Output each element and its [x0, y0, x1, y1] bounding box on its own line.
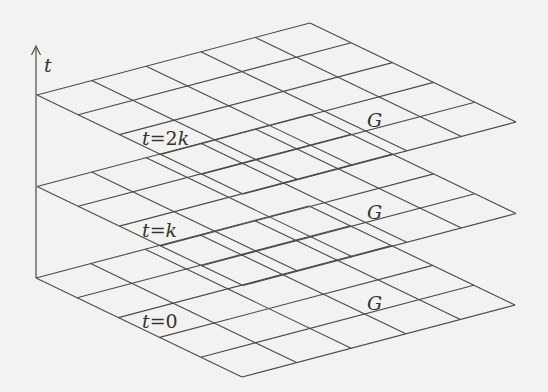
graph-label-middle: G [367, 201, 382, 223]
grid-layer-top: t=2kG [37, 23, 516, 194]
grid-layer-middle: t=kG [37, 115, 516, 286]
time-label-bottom: t=0 [142, 310, 178, 332]
time-axis: t [32, 46, 53, 278]
time-label-middle: t=k [142, 219, 177, 241]
graph-label-top: G [367, 109, 382, 131]
time-label-top: t=2k [142, 127, 189, 149]
grid-layer-bottom: t=0G [36, 206, 515, 377]
graph-label-bottom: G [367, 292, 382, 314]
layered-grid-diagram: t=0Gt=kGt=2kG t [0, 0, 548, 392]
axis-label: t [44, 54, 52, 76]
grid-layers: t=0Gt=kGt=2kG [36, 23, 516, 377]
